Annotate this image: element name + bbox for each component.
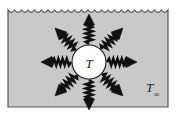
radiation-ray-5: [86, 80, 92, 99]
radiation-ray-3: [52, 59, 71, 65]
ambient-label-subscript: ∞: [154, 90, 160, 99]
body-temperature-label: T: [85, 56, 93, 71]
radiation-ray-1: [86, 25, 92, 44]
radiation-figure: T T∞: [0, 0, 181, 117]
figure-canvas: T T∞: [0, 0, 181, 117]
radiation-ray-7: [107, 59, 126, 65]
